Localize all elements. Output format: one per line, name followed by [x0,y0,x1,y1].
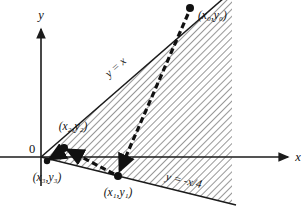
shaded-cone-region [41,0,232,204]
point-x1y1 [114,172,122,180]
figure-canvas: y x 0 y = x y = -x/4 (x₀,y₀) (x₁,y₁) (x₂… [0,0,306,206]
x-axis-label: x [294,150,301,164]
origin-label: 0 [29,142,35,156]
point-label-x1y1: (x₁,y₁) [104,186,133,199]
point-x2y2 [60,144,68,152]
geometry-figure: y x 0 y = x y = -x/4 (x₀,y₀) (x₁,y₁) (x₂… [0,0,306,206]
upper-boundary-label: y = x [102,54,130,81]
point-x3y3 [44,158,50,164]
point-label-x2y2: (x₂,y₂) [59,120,88,133]
point-label-x3y3: (x₃,y₃) [33,171,62,184]
point-x0y0 [186,4,194,12]
point-label-x0y0: (x₀,y₀) [198,9,227,22]
y-axis-label: y [36,8,44,22]
